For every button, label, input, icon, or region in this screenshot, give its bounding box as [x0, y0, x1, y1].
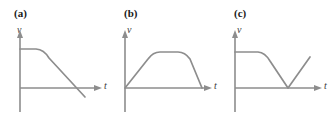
- panel-b-plot: [110, 0, 220, 134]
- panel-a-x-axis-arrow: [94, 85, 102, 91]
- panel-a-y-axis-arrow: [17, 30, 23, 38]
- panel-b-y-axis-arrow: [122, 30, 128, 38]
- panel-b: (b) v t: [110, 0, 220, 134]
- panel-b-x-axis-arrow: [204, 85, 212, 91]
- panel-a-plot: [0, 0, 110, 134]
- panel-b-velocity-curve: [125, 52, 202, 88]
- panel-c: (c) v t: [220, 0, 330, 134]
- panel-a-velocity-curve: [20, 49, 85, 97]
- panel-c-y-axis-arrow: [232, 30, 238, 38]
- panel-c-plot: [220, 0, 330, 134]
- panel-c-velocity-curve: [235, 52, 310, 88]
- velocity-time-figure: (a) v t (b) v t (c): [0, 0, 330, 134]
- panel-a: (a) v t: [0, 0, 110, 134]
- panel-c-x-axis-arrow: [314, 85, 322, 91]
